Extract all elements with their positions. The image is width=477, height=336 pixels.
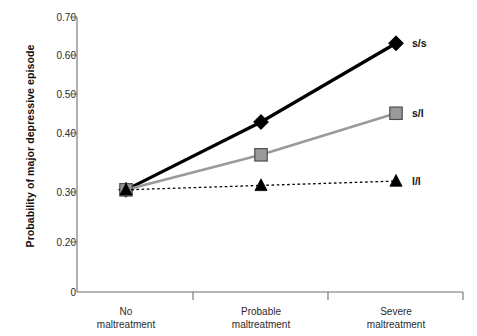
x-tick-label-severe-maltreatment: Severe maltreatment — [367, 305, 425, 331]
series-layer — [119, 36, 404, 197]
x-tick-label-line-2: maltreatment — [367, 318, 425, 331]
x-tick-label-line-1: Probable — [232, 305, 290, 318]
x-tick-label-line-2: maltreatment — [232, 318, 290, 331]
data-point-ll-2 — [390, 174, 402, 186]
x-tick-label-no-maltreatment: No maltreatment — [97, 305, 155, 331]
series-ss — [119, 36, 404, 197]
x-tick-label-line-1: No — [97, 305, 155, 318]
data-point-ll-1 — [255, 179, 267, 191]
x-tick-label-line-1: Severe — [367, 305, 425, 318]
x-tick-label-line-2: maltreatment — [97, 318, 155, 331]
x-tick-label-probable-maltreatment: Probable maltreatment — [232, 305, 290, 331]
data-point-ss-2 — [389, 36, 404, 51]
series-label-sl: s/l — [412, 107, 424, 119]
series-label-ll: l/l — [412, 175, 421, 187]
data-point-sl-2 — [390, 107, 402, 119]
chart-container: Probability of major depressive episode … — [0, 0, 477, 336]
series-ll — [120, 174, 402, 194]
data-point-ss-1 — [254, 115, 269, 130]
series-label-ss: s/s — [412, 37, 427, 49]
plot-area — [0, 0, 477, 336]
data-point-sl-1 — [255, 149, 267, 161]
